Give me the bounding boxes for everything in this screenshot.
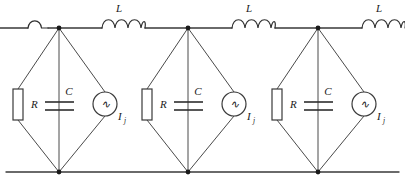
resistor-body — [13, 89, 23, 120]
inductor-label: L — [115, 2, 122, 14]
source-current-label: I — [117, 110, 123, 122]
cell-2-diag-bottom-left — [147, 120, 188, 172]
resistor-label: R — [159, 98, 167, 110]
capacitor-label: C — [324, 85, 332, 97]
inductor-coil-path — [362, 20, 405, 28]
ac-wave-icon: ∿ — [360, 98, 370, 110]
resistor-label: R — [289, 98, 297, 110]
source-current-label: I — [246, 110, 252, 122]
cell-3-diag-bottom-left — [277, 120, 318, 172]
cell-3-diag-bottom-right — [318, 116, 364, 172]
resistor-3: R — [272, 89, 297, 120]
cell-2-diag-bottom-right — [188, 116, 234, 172]
cell-1: R C ∿ I j — [13, 26, 126, 175]
resistor-body — [142, 89, 152, 120]
resistor-1: R — [13, 89, 38, 120]
current-source-1: ∿ I j — [93, 92, 126, 125]
cell-1-diag-top-left — [18, 28, 59, 89]
node-dot-bottom — [316, 170, 321, 175]
inductor-2: L — [232, 2, 275, 28]
inductor-label: L — [375, 2, 382, 14]
resistor-body — [272, 89, 282, 120]
capacitor-label: C — [194, 85, 202, 97]
node-dot-bottom — [186, 170, 191, 175]
inductor-coil-path — [28, 21, 48, 28]
inductor-label: L — [245, 2, 252, 14]
cell-1-diag-bottom-right — [59, 116, 105, 172]
node-dot-top — [316, 26, 321, 31]
inductor-1: L — [102, 2, 145, 28]
source-current-subscript: j — [382, 116, 385, 125]
inductor-3: L — [362, 2, 405, 28]
cell-2: R C ∿ I j — [142, 26, 255, 175]
cell-2-diag-top-right — [188, 28, 234, 92]
inductor-coil-path — [232, 20, 275, 28]
cell-2-diag-top-left — [147, 28, 188, 89]
node-dot-top — [186, 26, 191, 31]
current-source-2: ∿ I j — [222, 92, 255, 125]
node-dot-bottom — [57, 170, 62, 175]
capacitor-label: C — [65, 85, 73, 97]
current-source-3: ∿ I j — [352, 92, 385, 125]
cell-1-diag-bottom-left — [18, 120, 59, 172]
cell-3: R C ∿ I j — [272, 26, 385, 175]
cell-1-diag-top-right — [59, 28, 105, 92]
node-dot-top — [57, 26, 62, 31]
source-current-subscript: j — [252, 116, 255, 125]
circuit-diagram: L L L R — [0, 0, 405, 194]
inductor-left-partial — [28, 21, 48, 28]
ac-wave-icon: ∿ — [230, 98, 240, 110]
resistor-label: R — [30, 98, 38, 110]
ac-wave-icon: ∿ — [101, 98, 111, 110]
inductor-coil-path — [102, 20, 145, 28]
resistor-2: R — [142, 89, 167, 120]
cell-3-diag-top-right — [318, 28, 364, 92]
cell-3-diag-top-left — [277, 28, 318, 89]
source-current-subscript: j — [123, 116, 126, 125]
circuit-canvas: L L L R — [0, 0, 405, 194]
source-current-label: I — [376, 110, 382, 122]
